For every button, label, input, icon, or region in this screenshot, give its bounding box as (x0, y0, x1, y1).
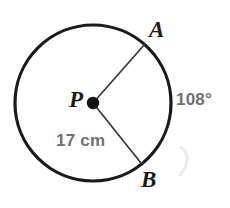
circle-diagram-figure: A B P 108° 17 cm (0, 0, 230, 208)
ghost-arc-artifact (180, 147, 187, 175)
arc-angle-label: 108° (176, 91, 212, 108)
center-point-dot (87, 97, 99, 109)
radius-segment-pa (93, 44, 145, 103)
point-label-a: A (149, 18, 164, 41)
point-label-b: B (141, 168, 156, 191)
radius-length-label: 17 cm (56, 132, 105, 149)
point-label-p: P (69, 88, 83, 111)
